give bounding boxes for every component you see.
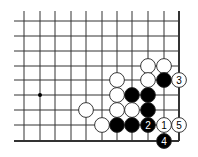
move-number: 4 [161, 136, 167, 147]
star-points [38, 93, 42, 97]
white-stone [110, 88, 125, 103]
go-board: 32154 [0, 0, 198, 157]
move-number: 3 [176, 75, 182, 86]
white-stone [79, 103, 94, 118]
white-stone [110, 103, 125, 118]
black-stone [125, 88, 140, 103]
black-stone [157, 73, 172, 88]
black-stone [110, 118, 125, 133]
white-stone [141, 59, 156, 74]
star-point [38, 93, 42, 97]
black-stone-2: 2 [141, 118, 156, 133]
move-number: 5 [176, 120, 182, 131]
white-stone-3: 3 [172, 73, 187, 88]
black-stone [125, 118, 140, 133]
white-stone-1: 1 [157, 118, 172, 133]
white-stone [110, 73, 125, 88]
white-stone [125, 103, 140, 118]
white-stone [157, 59, 172, 74]
move-number: 1 [161, 120, 167, 131]
move-number: 2 [145, 120, 151, 131]
white-stone-5: 5 [172, 118, 187, 133]
white-stone [95, 118, 110, 133]
black-stone [141, 88, 156, 103]
black-stone [141, 103, 156, 118]
white-stone [141, 73, 156, 88]
black-stone-4: 4 [157, 134, 172, 149]
